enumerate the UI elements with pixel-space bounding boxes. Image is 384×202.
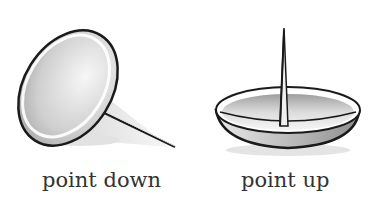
- thumbtack-point-down-icon: [0, 0, 192, 160]
- caption-point-up: point up: [241, 170, 329, 191]
- thumbtack-point-up-icon: [192, 0, 384, 160]
- figure-point-down: point down: [0, 0, 192, 202]
- caption-point-down: point down: [42, 170, 161, 191]
- figure-point-up: point up: [192, 0, 384, 202]
